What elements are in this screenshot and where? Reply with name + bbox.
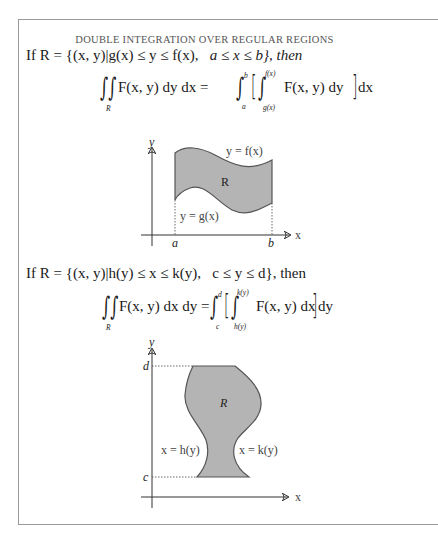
region-label: R bbox=[221, 175, 229, 189]
bottom-curve-label: y = g(x) bbox=[180, 209, 219, 223]
x-axis-label: x bbox=[295, 228, 301, 242]
bound-d-label: d bbox=[143, 359, 150, 373]
bound-c-label: c bbox=[143, 470, 149, 484]
y-axis-label: y bbox=[148, 135, 155, 149]
bound-b-label: b bbox=[268, 236, 274, 250]
left-curve-label: x = h(y) bbox=[161, 443, 200, 457]
bound-a-label: a bbox=[172, 236, 178, 250]
region-label: R bbox=[219, 396, 228, 410]
y-axis-label: y bbox=[148, 335, 155, 349]
x-axis-label: x bbox=[295, 490, 301, 504]
right-curve-label: x = k(y) bbox=[239, 443, 278, 457]
top-curve-label: y = f(x) bbox=[226, 144, 263, 158]
diagram-1: y x y = f(x) y = g(x) R a b bbox=[141, 135, 301, 250]
region-r-2 bbox=[185, 366, 261, 477]
diagram-2: y x x = h(y) x = k(y) R d c bbox=[141, 335, 301, 508]
